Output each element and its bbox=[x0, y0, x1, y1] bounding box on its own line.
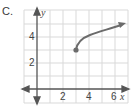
y-axis-label: y bbox=[40, 7, 46, 18]
x-axis-left-arrow-icon bbox=[22, 86, 29, 92]
graph: y 4 2 2 4 6 x bbox=[0, 0, 131, 111]
x-tick-2: 2 bbox=[60, 91, 66, 102]
y-axis-up-arrow-icon bbox=[34, 8, 40, 15]
start-point-dot bbox=[73, 47, 78, 52]
x-tick-6: 6 bbox=[111, 91, 117, 102]
x-tick-4: 4 bbox=[86, 91, 92, 102]
x-axis-label: x bbox=[119, 91, 125, 102]
y-tick-2: 2 bbox=[29, 57, 35, 68]
curve-arrow-icon bbox=[118, 22, 126, 28]
y-tick-4: 4 bbox=[29, 31, 35, 42]
